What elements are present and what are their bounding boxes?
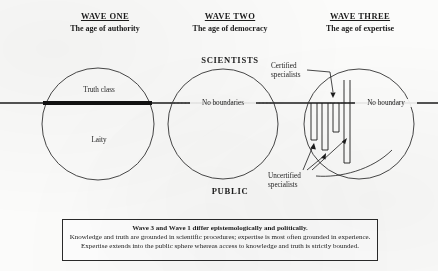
caption-line-1: Wave 3 and Wave 1 differ epistemological… <box>63 224 377 233</box>
uncertified-specialists-line-1: Uncertified <box>268 172 301 181</box>
uncertified-leader-line-3 <box>312 140 345 170</box>
uncertified-leader-group <box>303 138 392 176</box>
expertise-fingers-group <box>311 80 350 163</box>
expertise-finger-long <box>344 80 350 163</box>
figure-page: WAVE ONE The age of authority WAVE TWO T… <box>0 0 438 271</box>
certified-specialists-line-2: specialists <box>271 71 301 80</box>
uncertified-leader-arrowhead-1 <box>310 143 316 150</box>
expertise-finger-1 <box>311 103 317 140</box>
caption-box: Wave 3 and Wave 1 differ epistemological… <box>62 219 378 261</box>
certified-specialists-line-1: Certified <box>271 62 301 71</box>
wave-two-circle <box>168 69 278 179</box>
wave-two-boundary-label: No boundaries <box>190 99 256 107</box>
wave-one-upper-label: Truth class <box>68 86 130 94</box>
certified-leader-arrowhead <box>330 93 335 99</box>
wave-one-circle <box>42 68 154 180</box>
certified-leader-line <box>307 70 333 92</box>
uncertified-specialists-line-2: specialists <box>268 181 301 190</box>
wave-three-boundary-label: No boundary <box>355 99 417 107</box>
expertise-finger-2 <box>322 103 328 150</box>
uncertified-specialists-annotation: Uncertified specialists <box>268 172 301 189</box>
wave-one-lower-label: Laity <box>68 136 130 144</box>
expertise-finger-3 <box>333 103 339 132</box>
uncertified-leader-curve <box>316 150 392 176</box>
certified-specialists-annotation: Certified specialists <box>271 62 301 79</box>
caption-line-3: Expertise extends into the public sphere… <box>63 242 377 251</box>
caption-line-2: Knowledge and truth are grounded in scie… <box>63 233 377 242</box>
uncertified-leader-arrowhead-2 <box>321 153 326 160</box>
